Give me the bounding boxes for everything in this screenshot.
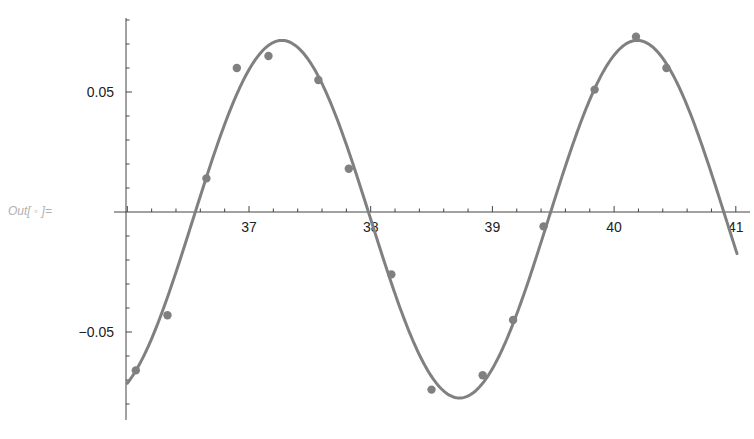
y-tick-label: −0.05: [79, 324, 115, 340]
data-point: [478, 371, 486, 379]
data-point: [345, 165, 353, 173]
data-point: [509, 316, 517, 324]
data-point: [202, 174, 210, 182]
data-point: [539, 222, 547, 230]
data-point: [632, 33, 640, 41]
data-points: [132, 33, 671, 394]
x-tick-label: 37: [241, 219, 257, 235]
fit-curve: [127, 40, 737, 398]
data-point: [427, 385, 435, 393]
data-point: [662, 64, 670, 72]
data-point: [387, 270, 395, 278]
y-tick-label: 0.05: [87, 84, 114, 100]
axes: [114, 18, 750, 420]
data-point: [233, 64, 241, 72]
data-point: [264, 52, 272, 60]
data-point: [314, 76, 322, 84]
data-point: [163, 311, 171, 319]
x-tick-label: 39: [485, 219, 501, 235]
data-point: [132, 366, 140, 374]
data-point: [590, 85, 598, 93]
chart-plot: 37383940410.05−0.05: [0, 0, 754, 439]
x-tick-label: 40: [606, 219, 622, 235]
